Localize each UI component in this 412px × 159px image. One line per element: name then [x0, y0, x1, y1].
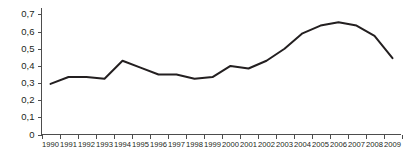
x-tick-label: 2001 — [240, 140, 257, 149]
x-tick-label: 2004 — [294, 140, 311, 149]
y-axis-tick-labels: 00,10,20,30,40,50,60,7 — [21, 8, 34, 140]
y-axis-ticks — [38, 15, 42, 136]
chart-canvas: 00,10,20,30,40,50,60,7 19901991199219931… — [0, 0, 412, 159]
y-tick-label: 0,1 — [21, 111, 34, 122]
x-tick-label: 2000 — [222, 140, 239, 149]
x-tick-label: 2003 — [276, 140, 293, 149]
y-tick-label: 0 — [29, 129, 34, 140]
y-tick-label: 0,3 — [21, 77, 34, 88]
y-tick-label: 0,5 — [21, 43, 34, 54]
x-tick-label: 2005 — [312, 140, 329, 149]
x-tick-label: 2008 — [366, 140, 383, 149]
x-axis: 1990199119921993199419951996199719981999… — [42, 135, 403, 150]
x-tick-label: 1991 — [60, 140, 77, 149]
x-tick-label: 1994 — [114, 140, 131, 149]
y-tick-label: 0,6 — [21, 26, 34, 37]
x-tick-label: 2007 — [348, 140, 365, 149]
x-tick-label: 2006 — [330, 140, 347, 149]
plot-area — [51, 22, 393, 84]
x-tick-label: 1999 — [204, 140, 221, 149]
x-axis-ticks — [43, 135, 403, 139]
x-tick-label: 1993 — [96, 140, 113, 149]
x-tick-label: 1992 — [78, 140, 95, 149]
x-tick-label: 2009 — [384, 140, 401, 149]
y-tick-label: 0,7 — [21, 8, 34, 19]
x-tick-label: 1995 — [132, 140, 149, 149]
data-series-line — [51, 22, 393, 84]
y-tick-label: 0,2 — [21, 94, 34, 105]
x-axis-tick-labels: 1990199119921993199419951996199719981999… — [42, 140, 401, 149]
y-tick-label: 0,4 — [21, 60, 34, 71]
y-axis: 00,10,20,30,40,50,60,7 — [21, 8, 41, 140]
x-tick-label: 1996 — [150, 140, 167, 149]
x-tick-label: 1990 — [42, 140, 59, 149]
x-tick-label: 1997 — [168, 140, 185, 149]
x-tick-label: 2002 — [258, 140, 275, 149]
line-chart: 00,10,20,30,40,50,60,7 19901991199219931… — [0, 0, 412, 159]
x-tick-label: 1998 — [186, 140, 203, 149]
